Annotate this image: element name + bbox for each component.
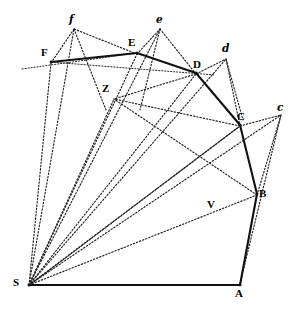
vertex-dot-A <box>239 284 242 287</box>
radii-fan-from-S <box>29 29 281 285</box>
point-label-E: E <box>128 37 135 48</box>
segment-E-F <box>51 53 137 62</box>
vertex-dot-F <box>50 61 53 64</box>
ray-S-B <box>29 195 257 285</box>
point-label-S: S <box>13 277 19 288</box>
point-label-V: V <box>207 199 215 210</box>
point-label-F: F <box>41 47 48 58</box>
vertex-dot-E <box>136 52 139 55</box>
segment-B-C <box>240 125 257 194</box>
vertex-dot-C <box>238 123 241 126</box>
line-B-V-Z <box>114 99 257 195</box>
line-A-V-c <box>240 115 281 284</box>
vertex-dot-S <box>28 284 31 287</box>
ray-S-F <box>29 63 51 285</box>
point-label-d-script: d <box>222 43 229 54</box>
ray-S-E <box>29 54 137 285</box>
point-label-B: B <box>259 188 266 199</box>
tangent-construction-group <box>31 29 281 284</box>
segment-C-D <box>196 73 240 125</box>
ray-S-f <box>29 29 74 285</box>
point-label-Z: Z <box>102 83 109 94</box>
line-C-c <box>240 115 281 126</box>
point-label-f-script: f <box>69 14 74 25</box>
vertex-dot-D <box>194 71 197 74</box>
ray-S-Z <box>29 99 114 285</box>
vertex-dot-B <box>256 193 259 196</box>
vertex-dots-group <box>28 52 259 287</box>
line-f-down-Z <box>74 29 106 110</box>
point-label-D: D <box>193 59 201 70</box>
point-label-e-script: e <box>156 14 163 25</box>
diagram-canvas: S A B C D E F V Z c d e f <box>0 0 298 310</box>
segment-A-B <box>240 194 257 285</box>
point-label-C: C <box>237 111 245 122</box>
orbit-polygon-group <box>29 53 257 285</box>
line-B-c <box>257 115 281 195</box>
point-label-A: A <box>235 288 243 299</box>
point-label-c-script: c <box>277 102 283 113</box>
line-F-right-extension <box>51 62 215 75</box>
